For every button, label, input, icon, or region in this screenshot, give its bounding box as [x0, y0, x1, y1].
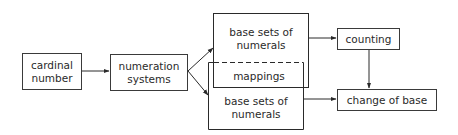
- cardinal-number-line2: number: [31, 72, 73, 85]
- base-sets-bottom-line1: base sets of: [209, 95, 303, 108]
- cardinal-number-box: cardinal number: [22, 53, 82, 90]
- numeration-systems-line1: numeration: [119, 60, 180, 73]
- base-sets-top-label: base sets of numerals: [214, 26, 308, 52]
- base-sets-bottom-line2: numerals: [209, 108, 303, 121]
- arrow-numeration-to-base-bottom: [188, 71, 208, 95]
- counting-box: counting: [337, 28, 400, 50]
- change-of-base-box: change of base: [337, 89, 437, 111]
- numeration-systems-box: numeration systems: [110, 54, 188, 91]
- base-sets-bottom-label: base sets of numerals: [209, 95, 303, 121]
- cardinal-number-line1: cardinal: [31, 59, 73, 72]
- mappings-label: mappings: [214, 70, 304, 83]
- base-sets-top-line2: numerals: [214, 39, 308, 52]
- base-sets-top-line1: base sets of: [214, 26, 308, 39]
- numeration-systems-line2: systems: [119, 73, 180, 86]
- arrow-numeration-to-base-top: [188, 48, 213, 71]
